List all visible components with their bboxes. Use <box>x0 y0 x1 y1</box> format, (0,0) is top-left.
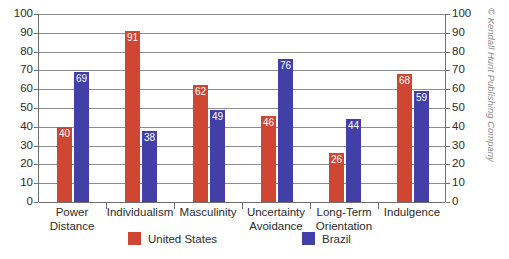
category-label: Individualism <box>106 206 174 220</box>
y-axis-tick-label-right: 60 <box>452 83 465 95</box>
category-label-line: Power <box>38 206 106 220</box>
y-axis-tick-mark-left <box>34 108 38 109</box>
y-axis-tick-label-left: 10 <box>20 177 33 189</box>
legend-swatch <box>302 232 315 245</box>
bar-value-label: 46 <box>261 117 276 128</box>
y-axis-tick-mark-right <box>446 108 450 109</box>
bar-value-label: 62 <box>193 86 208 97</box>
bar-value-label: 49 <box>210 111 225 122</box>
category-label-line: Avoidance <box>242 220 310 234</box>
legend: United StatesBrazil <box>0 232 509 252</box>
y-axis-tick-label-right: 20 <box>452 158 465 170</box>
category-label: Long-TermOrientation <box>310 206 378 233</box>
gridline <box>39 108 445 109</box>
y-axis-tick-mark-left <box>34 89 38 90</box>
y-axis-tick-label-right: 0 <box>452 196 458 208</box>
category-label: UncertaintyAvoidance <box>242 206 310 233</box>
y-axis-tick-label-left: 100 <box>14 8 33 20</box>
legend-label: Brazil <box>322 233 351 245</box>
y-axis-tick-label-right: 80 <box>452 46 465 58</box>
copyright-text: © Kendall Hunt Publishing Company <box>486 8 497 22</box>
y-axis-tick-label-right: 10 <box>452 177 465 189</box>
bar-value-label: 26 <box>329 154 344 165</box>
gridline <box>39 33 445 34</box>
y-axis-tick-label-left: 30 <box>20 140 33 152</box>
bar-value-label: 76 <box>278 60 293 71</box>
legend-item-brazil: Brazil <box>302 232 351 245</box>
category-label-line: Indulgence <box>378 206 446 220</box>
gridline <box>39 164 445 165</box>
y-axis-tick-mark-right <box>446 14 450 15</box>
y-axis-left: 0102030405060708090100 <box>0 0 33 259</box>
bar-value-label: 40 <box>57 128 72 139</box>
category-separator <box>174 202 175 209</box>
y-axis-tick-mark-right <box>446 146 450 147</box>
gridline <box>39 183 445 184</box>
gridline <box>39 146 445 147</box>
y-axis-tick-mark-right <box>446 127 450 128</box>
plot-area: 406991386249467626446859 <box>38 14 446 202</box>
y-axis-right: 0102030405060708090100 <box>452 0 486 259</box>
bar-united-states: 62 <box>193 85 208 202</box>
category-label-line: Individualism <box>106 206 174 220</box>
y-axis-tick-label-right: 100 <box>452 8 471 20</box>
y-axis-tick-mark-right <box>446 70 450 71</box>
bar-united-states: 40 <box>57 127 72 202</box>
gridline <box>39 70 445 71</box>
bar-value-label: 68 <box>397 75 412 86</box>
y-axis-tick-label-left: 60 <box>20 83 33 95</box>
y-axis-tick-mark-left <box>34 33 38 34</box>
y-axis-tick-label-left: 20 <box>20 158 33 170</box>
y-axis-tick-label-left: 40 <box>20 121 33 133</box>
y-axis-tick-label-left: 70 <box>20 64 33 76</box>
y-axis-tick-mark-left <box>34 52 38 53</box>
gridline <box>39 127 445 128</box>
grouped-bar-chart: 0102030405060708090100 01020304050607080… <box>0 0 509 259</box>
y-axis-tick-mark-left <box>34 183 38 184</box>
category-separator <box>106 202 107 209</box>
gridline <box>39 14 445 15</box>
category-separator <box>242 202 243 209</box>
bar-value-label: 69 <box>74 73 89 84</box>
bar-brazil: 49 <box>210 110 225 202</box>
y-axis-tick-label-left: 80 <box>20 46 33 58</box>
bar-united-states: 68 <box>397 74 412 202</box>
bar-value-label: 91 <box>125 32 140 43</box>
category-label-line: Uncertainty <box>242 206 310 220</box>
y-axis-tick-label-right: 50 <box>452 102 465 114</box>
copyright-credit: © Kendall Hunt Publishing Company <box>486 8 500 198</box>
y-axis-tick-label-right: 90 <box>452 27 465 39</box>
y-axis-tick-mark-left <box>34 70 38 71</box>
y-axis-tick-label-left: 50 <box>20 102 33 114</box>
y-axis-tick-mark-right <box>446 183 450 184</box>
bar-value-label: 59 <box>414 92 429 103</box>
category-label-line: Long-Term <box>310 206 378 220</box>
bar-value-label: 44 <box>346 120 361 131</box>
y-axis-tick-mark-right <box>446 164 450 165</box>
legend-item-united-states: United States <box>128 232 217 245</box>
y-axis-tick-label-left: 90 <box>20 27 33 39</box>
y-axis-tick-label-right: 30 <box>452 140 465 152</box>
bar-brazil: 44 <box>346 119 361 202</box>
y-axis-tick-mark-right <box>446 89 450 90</box>
bar-united-states: 46 <box>261 116 276 202</box>
bar-united-states: 91 <box>125 31 140 202</box>
y-axis-tick-mark-left <box>34 164 38 165</box>
y-axis-tick-label-right: 70 <box>452 64 465 76</box>
bar-value-label: 38 <box>142 132 157 143</box>
legend-label: United States <box>148 233 217 245</box>
gridline <box>39 52 445 53</box>
y-axis-tick-mark-left <box>34 146 38 147</box>
bar-brazil: 59 <box>414 91 429 202</box>
bar-brazil: 69 <box>74 72 89 202</box>
category-label-line: Masculinity <box>174 206 242 220</box>
category-label: Indulgence <box>378 206 446 220</box>
category-label-line: Distance <box>38 220 106 234</box>
y-axis-tick-mark-right <box>446 33 450 34</box>
gridline <box>39 89 445 90</box>
y-axis-tick-mark-left <box>34 202 38 203</box>
bar-united-states: 26 <box>329 153 344 202</box>
category-separator <box>310 202 311 209</box>
y-axis-tick-mark-left <box>34 14 38 15</box>
category-label-line: Orientation <box>310 220 378 234</box>
